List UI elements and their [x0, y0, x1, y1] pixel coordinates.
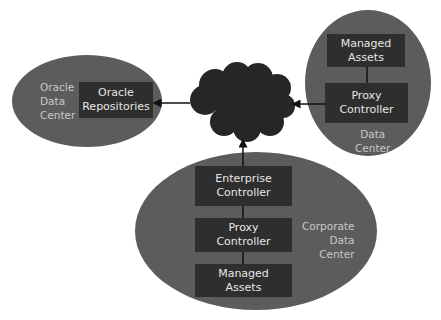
connectors-layer	[0, 0, 441, 320]
cloud-icon	[190, 62, 295, 142]
